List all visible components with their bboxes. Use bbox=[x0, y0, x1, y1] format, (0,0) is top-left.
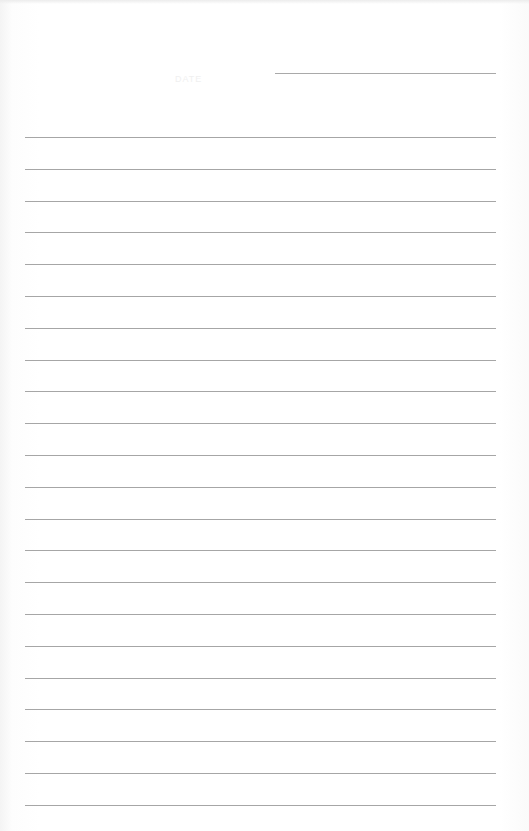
lined-paper-page: DATE bbox=[0, 0, 529, 831]
ruled-line bbox=[25, 169, 496, 170]
ruled-line bbox=[25, 709, 496, 710]
ruled-line bbox=[25, 232, 496, 233]
ruled-line bbox=[25, 741, 496, 742]
ruled-line bbox=[25, 678, 496, 679]
date-line bbox=[275, 73, 496, 74]
ruled-line bbox=[25, 487, 496, 488]
ruled-line bbox=[25, 455, 496, 456]
ruled-line bbox=[25, 264, 496, 265]
ruled-line bbox=[25, 137, 496, 138]
ruled-line bbox=[25, 201, 496, 202]
ruled-line bbox=[25, 805, 496, 806]
ruled-line bbox=[25, 328, 496, 329]
ruled-line bbox=[25, 773, 496, 774]
ruled-line bbox=[25, 550, 496, 551]
ruled-line bbox=[25, 360, 496, 361]
page-top-edge bbox=[0, 0, 529, 4]
ruled-line bbox=[25, 614, 496, 615]
ruled-line bbox=[25, 519, 496, 520]
ruled-line bbox=[25, 296, 496, 297]
date-label: DATE bbox=[175, 74, 202, 84]
ruled-line bbox=[25, 391, 496, 392]
ruled-line bbox=[25, 582, 496, 583]
ruled-line bbox=[25, 646, 496, 647]
ruled-line bbox=[25, 423, 496, 424]
